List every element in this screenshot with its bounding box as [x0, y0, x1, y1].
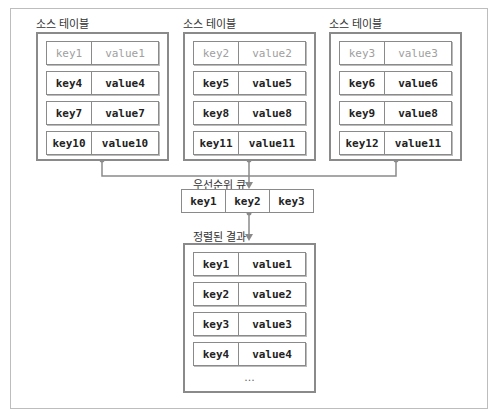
- source-table-label: 소스 테이블: [183, 15, 237, 31]
- row-key: key2: [194, 283, 239, 305]
- table-row: key12value11: [339, 131, 452, 155]
- sorted-result-table: key1value1 key2value2 key3value3 key4val…: [183, 243, 316, 393]
- row-value: value8: [239, 102, 305, 124]
- source-table-3: key3value3 key6value6 key9value8 key12va…: [329, 32, 462, 161]
- row-value: value4: [239, 343, 305, 365]
- table-row: key7value7: [46, 101, 159, 125]
- table-row: key1value1: [193, 252, 306, 276]
- row-value: value6: [385, 72, 451, 94]
- row-key: key7: [47, 102, 92, 124]
- row-key: key3: [194, 313, 239, 335]
- sorted-result-label: 정렬된 결과: [193, 228, 247, 244]
- row-key: key11: [194, 132, 239, 154]
- table-row: key4value4: [193, 342, 306, 366]
- row-key: key12: [340, 132, 385, 154]
- source-table-1: key1value1 key4value4 key7value7 key10va…: [36, 32, 169, 161]
- row-key: key6: [340, 72, 385, 94]
- queue-cell: key2: [226, 190, 270, 212]
- row-value: value11: [239, 132, 305, 154]
- row-value: value2: [239, 283, 305, 305]
- row-value: value11: [385, 132, 451, 154]
- row-value: value1: [92, 42, 158, 64]
- table-row: key11value11: [193, 131, 306, 155]
- ellipsis: ...: [185, 371, 314, 384]
- row-value: value1: [239, 253, 305, 275]
- row-value: value10: [92, 132, 158, 154]
- table-row: key10value10: [46, 131, 159, 155]
- table-row: key2value2: [193, 41, 306, 65]
- row-key: key4: [47, 72, 92, 94]
- priority-queue: key1 key2 key3: [181, 189, 314, 213]
- row-value: value3: [385, 42, 451, 64]
- row-key: key1: [194, 253, 239, 275]
- row-key: key8: [194, 102, 239, 124]
- row-key: key2: [194, 42, 239, 64]
- row-value: value5: [239, 72, 305, 94]
- queue-cell: key1: [182, 190, 226, 212]
- row-value: value8: [385, 102, 451, 124]
- table-row: key9value8: [339, 101, 452, 125]
- row-key: key4: [194, 343, 239, 365]
- queue-cell: key3: [270, 190, 313, 212]
- row-key: key10: [47, 132, 92, 154]
- source-table-label: 소스 테이블: [36, 15, 90, 31]
- row-value: value3: [239, 313, 305, 335]
- source-table-label: 소스 테이블: [329, 15, 383, 31]
- row-value: value2: [239, 42, 305, 64]
- table-row: key3value3: [339, 41, 452, 65]
- source-table-2: key2value2 key5value5 key8value8 key11va…: [183, 32, 316, 161]
- row-key: key5: [194, 72, 239, 94]
- table-row: key2value2: [193, 282, 306, 306]
- table-row: key1value1: [46, 41, 159, 65]
- table-row: key5value5: [193, 71, 306, 95]
- row-value: value7: [92, 102, 158, 124]
- row-value: value4: [92, 72, 158, 94]
- row-key: key9: [340, 102, 385, 124]
- table-row: key8value8: [193, 101, 306, 125]
- table-row: key6value6: [339, 71, 452, 95]
- row-key: key1: [47, 42, 92, 64]
- row-key: key3: [340, 42, 385, 64]
- table-row: key4value4: [46, 71, 159, 95]
- table-row: key3value3: [193, 312, 306, 336]
